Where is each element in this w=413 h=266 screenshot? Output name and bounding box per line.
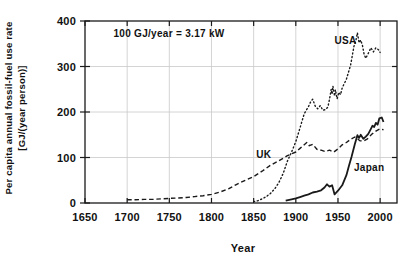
x-tick-label: 2000 xyxy=(367,211,392,223)
japan-series-line xyxy=(286,118,384,201)
series-lines xyxy=(127,33,383,202)
x-tick-label: 1800 xyxy=(199,211,224,223)
usa-series-line xyxy=(254,33,381,202)
japan-series-label: Japan xyxy=(354,162,384,173)
x-tick-label: 1700 xyxy=(115,211,140,223)
gridlines xyxy=(85,21,397,203)
x-tick-label: 1900 xyxy=(283,211,308,223)
x-tick-label: 1950 xyxy=(325,211,350,223)
y-axis-title-line2: [GJ/(year person)] xyxy=(16,65,27,150)
x-tick-label: 1750 xyxy=(157,211,182,223)
usa-series-label: USA xyxy=(335,35,357,46)
chart-canvas: 1650170017501800185019001950200001002003… xyxy=(0,0,413,266)
y-tick-label: 0 xyxy=(70,197,76,209)
fossil-fuel-chart-figure: 1650170017501800185019001950200001002003… xyxy=(0,0,413,266)
y-tick-label: 200 xyxy=(57,106,76,118)
x-tick-label: 1650 xyxy=(72,211,97,223)
x-axis-title: Year xyxy=(231,242,256,254)
y-tick-label: 400 xyxy=(57,15,76,27)
x-tick-label: 1850 xyxy=(241,211,266,223)
series-labels: USAUKJapan xyxy=(256,35,384,173)
y-tick-label: 100 xyxy=(57,152,76,164)
y-tick-label: 300 xyxy=(57,61,76,73)
conversion-annotation: 100 GJ/year = 3.17 kW xyxy=(113,28,224,39)
uk-series-label: UK xyxy=(256,149,272,160)
uk-series-line xyxy=(127,129,383,200)
y-axis-title-line1: Per capita annual fossil-fuel use rate xyxy=(3,22,14,195)
axis-tick-labels: 1650170017501800185019001950200001002003… xyxy=(57,15,393,223)
